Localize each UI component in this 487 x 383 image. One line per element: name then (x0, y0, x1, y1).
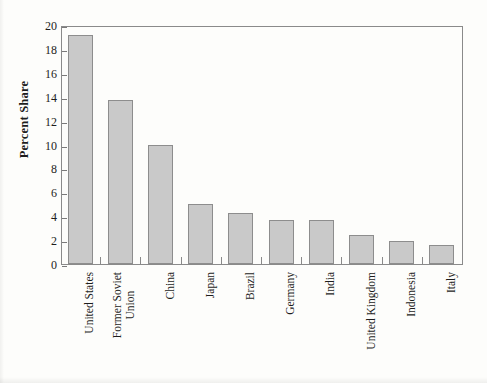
y-tick-label: 20 (45, 19, 57, 34)
x-tick-mark (261, 257, 262, 264)
x-tick-mark (422, 257, 423, 264)
x-axis-label-text: India (324, 272, 337, 296)
bar (148, 145, 173, 265)
bar (188, 204, 213, 264)
bar (429, 245, 454, 264)
x-axis-label-text: Japan (204, 272, 217, 298)
y-tick-label: 4 (51, 210, 57, 225)
y-tick-label: 0 (51, 258, 57, 273)
bar (389, 241, 414, 264)
x-tick-mark (221, 257, 222, 264)
plot-area: 02468101214161820 (61, 26, 463, 265)
x-axis-label-text: China (164, 272, 177, 299)
x-axis-label-text: United Kingdom (365, 272, 378, 350)
y-tick-label: 18 (45, 43, 57, 58)
x-tick-mark (181, 257, 182, 264)
bar-series (62, 27, 462, 264)
bar (309, 220, 334, 264)
x-axis-label-text: Former SovietUnion (111, 272, 136, 338)
x-axis-label-text: Germany (284, 272, 297, 315)
y-tick-label: 16 (45, 67, 57, 82)
y-tick-label: 8 (51, 162, 57, 177)
x-tick-mark (382, 257, 383, 264)
x-axis-label-text: Brazil (244, 272, 257, 300)
x-tick-mark (100, 257, 101, 264)
y-tick-mark (62, 266, 67, 267)
bar (349, 235, 374, 264)
y-tick-label: 6 (51, 186, 57, 201)
bar (228, 213, 253, 264)
x-tick-mark (341, 257, 342, 264)
bar (108, 100, 133, 264)
x-tick-mark (140, 257, 141, 264)
y-axis-title: Percent Share (17, 60, 32, 180)
chart-page: Percent Share 02468101214161820 United S… (0, 0, 487, 383)
y-tick-label: 2 (51, 234, 57, 249)
bar (269, 220, 294, 264)
scan-edge-left (0, 0, 4, 383)
x-axis-labels: United StatesFormer SovietUnionChinaJapa… (61, 272, 463, 383)
bar (68, 35, 93, 264)
x-axis-label-text: Italy (445, 272, 458, 293)
y-tick-label: 10 (45, 139, 57, 154)
x-tick-mark (301, 257, 302, 264)
x-axis-label-text: Indonesia (405, 272, 418, 317)
x-axis-label-text: United States (83, 272, 96, 334)
y-tick-label: 12 (45, 115, 57, 130)
y-tick-label: 14 (45, 91, 57, 106)
